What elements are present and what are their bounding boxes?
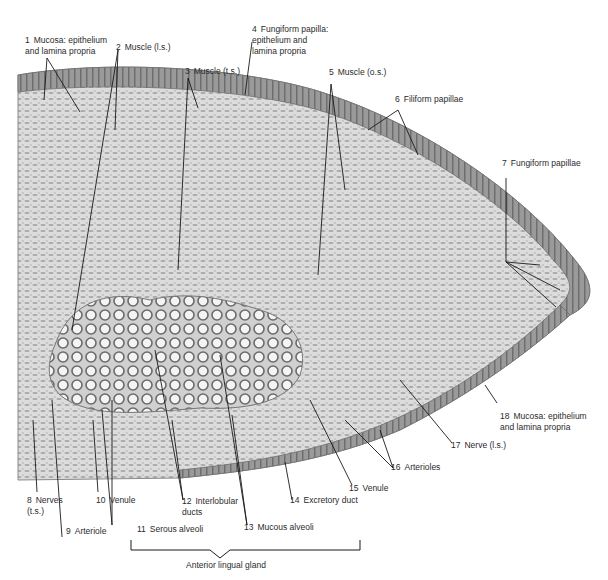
label-16-arterioles: 16Arterioles — [391, 462, 440, 473]
label-6-filiform-papillae: 6Filiform papillae — [395, 94, 463, 105]
gland-bracket — [131, 540, 360, 558]
histology-diagram: 1Mucosa: epithelium and lamina propria 2… — [0, 0, 608, 580]
tissue-illustration — [0, 0, 608, 580]
label-3-muscle-ts: 3Muscle (t.s.) — [185, 66, 240, 77]
label-2-muscle-ls: 2Muscle (l.s.) — [116, 42, 171, 53]
label-9-arteriole: 9Arteriole — [66, 526, 106, 537]
label-10-venule: 10Venule — [96, 495, 135, 506]
label-18-mucosa: 18Mucosa: epithelium and lamina propria — [500, 411, 587, 433]
label-5-muscle-os: 5Muscle (o.s.) — [329, 67, 386, 78]
label-14-excretory-duct: 14Excretory duct — [290, 495, 358, 506]
label-4-fungiform-papilla: 4Fungiform papilla: epithelium and lamin… — [252, 24, 328, 57]
label-1-mucosa: 1Mucosa: epithelium and lamina propria — [25, 35, 107, 57]
label-13-mucous-alveoli: 13Mucous alveoli — [244, 522, 314, 533]
label-15-venule: 15Venule — [349, 483, 388, 494]
anterior-lingual-gland-label: Anterior lingual gland — [186, 560, 266, 571]
label-11-serous-alveoli: 11Serous alveoli — [137, 524, 203, 535]
label-7-fungiform-papillae: 7Fungiform papillae — [502, 158, 581, 169]
label-17-nerve-ls: 17Nerve (l.s.) — [451, 440, 506, 451]
label-8-nerves: 8Nerves (t.s.) — [27, 495, 63, 517]
anterior-lingual-gland — [49, 296, 302, 413]
label-12-interlobular-ducts: 12Interlobular ducts — [182, 496, 238, 518]
